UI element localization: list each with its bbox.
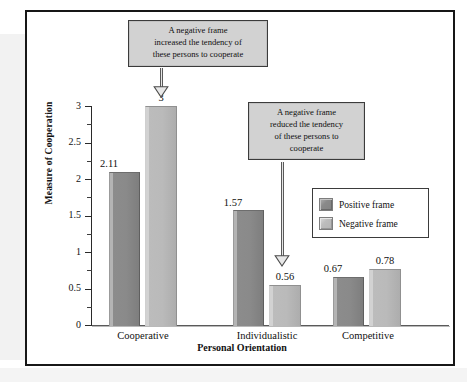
bar-face <box>145 106 177 326</box>
y-tick-major <box>85 252 92 253</box>
bar-value-competitive-positive: 0.67 <box>303 263 363 274</box>
legend-item-negative-frame: Negative frame <box>319 215 398 232</box>
y-tick-label-1.5: 1.5 <box>47 209 81 220</box>
y-tick-label-2: 2 <box>47 173 81 184</box>
bar-face <box>369 269 401 326</box>
bar-value-cooperative-positive: 2.11 <box>79 158 139 169</box>
legend-label-negative-frame: Negative frame <box>339 219 398 229</box>
y-tick-minor <box>87 234 92 235</box>
bar-cooperative-negative[interactable] <box>145 106 177 326</box>
annotation-line: of these persons to <box>255 131 358 143</box>
y-tick-minor <box>87 197 92 198</box>
annotation-line: cooperate <box>255 143 358 155</box>
bar-individualistic-negative[interactable] <box>269 285 301 326</box>
bar-face <box>109 172 140 326</box>
paper-edge-left <box>0 34 26 360</box>
bar-value-individualistic-positive: 1.57 <box>203 197 263 208</box>
y-tick-major <box>85 216 92 217</box>
y-tick-major <box>85 179 92 180</box>
y-tick-label-0.5: 0.5 <box>47 282 81 293</box>
legend-item-positive-frame: Positive frame <box>319 196 394 213</box>
y-tick-label-0: 0 <box>47 319 81 330</box>
y-tick-minor <box>87 124 92 125</box>
annotation-arrow-stem-reduced <box>281 162 284 257</box>
x-axis-title: Personal Orientation <box>27 342 457 353</box>
bar-face <box>233 210 264 326</box>
y-tick-major <box>85 106 92 107</box>
annotation-line: A negative frame <box>255 107 358 119</box>
y-tick-label-2.5: 2.5 <box>47 136 81 147</box>
bar-face <box>269 285 301 326</box>
bar-value-competitive-negative: 0.78 <box>355 255 415 266</box>
chart-plot-area: Measure of Cooperation Personal Orientat… <box>27 12 457 368</box>
y-tick-minor <box>87 307 92 308</box>
annotation-line: increased the tendency of <box>135 37 261 49</box>
paper-edge-bottom <box>0 368 467 382</box>
x-tick-label-competitive: Competitive <box>298 330 438 341</box>
x-axis-line-shadow <box>92 326 450 327</box>
annotation-callout-reduced: A negative frame reduced the tendency of… <box>248 102 365 160</box>
bar-face <box>333 277 364 326</box>
bar-competitive-positive[interactable] <box>333 277 364 326</box>
bar-cooperative-positive[interactable] <box>109 172 140 326</box>
figure-border: Measure of Cooperation Personal Orientat… <box>25 10 455 366</box>
y-tick-major <box>85 143 92 144</box>
y-tick-major <box>85 289 92 290</box>
annotation-line: reduced the tendency <box>255 119 358 131</box>
chart-legend: Positive frame Negative frame <box>312 188 429 238</box>
y-tick-minor <box>87 270 92 271</box>
bar-individualistic-positive[interactable] <box>233 210 264 326</box>
annotation-arrow-stem-increased <box>160 68 163 88</box>
positive-frame-swatch-icon <box>319 198 333 211</box>
x-tick-label-cooperative: Cooperative <box>73 330 213 341</box>
figure-page: Measure of Cooperation Personal Orientat… <box>0 0 467 382</box>
annotation-line: A negative frame <box>135 25 261 37</box>
bar-competitive-negative[interactable] <box>369 269 401 326</box>
y-tick-label-3: 3 <box>47 100 81 111</box>
annotation-callout-increased: A negative frame increased the tendency … <box>128 20 268 67</box>
y-tick-label-1: 1 <box>47 246 81 257</box>
annotation-line: these persons to cooperate <box>135 49 261 61</box>
y-tick-major <box>85 325 92 326</box>
legend-label-positive-frame: Positive frame <box>339 200 394 210</box>
negative-frame-swatch-icon <box>319 217 333 230</box>
